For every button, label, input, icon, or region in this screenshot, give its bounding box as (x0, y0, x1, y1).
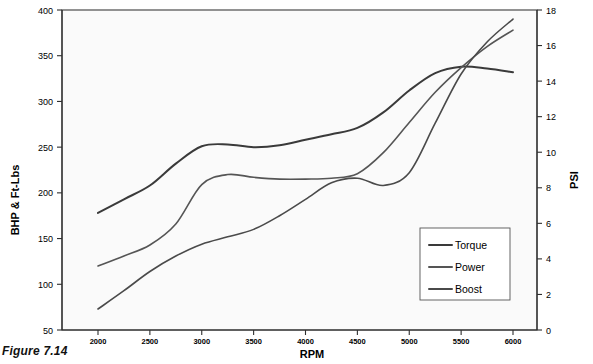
y-axis-title: BHP & Ft-Lbs (9, 165, 21, 236)
y2-tick-label: 6 (546, 219, 551, 229)
legend-label-boost[interactable]: Boost (455, 283, 482, 295)
x-tick-label: 5500 (453, 337, 470, 346)
x-tick-label: 3000 (193, 337, 210, 346)
y-tick-label: 350 (38, 51, 53, 61)
y2-tick-label: 8 (546, 183, 551, 193)
chart-legend[interactable]: TorquePowerBoost (420, 228, 510, 300)
dyno-chart: 5010015020025030035040002468101214161820… (0, 0, 593, 364)
y-tick-label: 50 (43, 326, 53, 336)
x-tick-label: 4500 (349, 337, 366, 346)
y2-tick-label: 18 (546, 6, 556, 16)
figure-caption: Figure 7.14 (2, 344, 68, 358)
y2-tick-label: 16 (546, 41, 556, 51)
y2-tick-label: 0 (546, 326, 551, 336)
y-tick-label: 100 (38, 280, 53, 290)
x-tick-label: 4000 (297, 337, 314, 346)
x-tick-label: 2500 (142, 337, 159, 346)
y2-tick-label: 2 (546, 290, 551, 300)
y-tick-label: 250 (38, 143, 53, 153)
y2-tick-label: 10 (546, 148, 556, 158)
legend-label-power[interactable]: Power (455, 261, 485, 273)
y2-tick-label: 12 (546, 112, 556, 122)
x-axis-title: RPM (300, 348, 324, 360)
y-tick-label: 200 (38, 188, 53, 198)
figure-container: 5010015020025030035040002468101214161820… (0, 0, 593, 364)
y2-tick-label: 14 (546, 77, 556, 87)
y2-axis-title: PSI (568, 171, 580, 189)
x-tick-label: 3500 (245, 337, 262, 346)
y-tick-label: 300 (38, 97, 53, 107)
y-tick-label: 400 (38, 6, 53, 16)
y2-tick-label: 4 (546, 254, 551, 264)
x-tick-label: 6000 (505, 337, 522, 346)
x-tick-label: 5000 (401, 337, 418, 346)
y-tick-label: 150 (38, 234, 53, 244)
legend-label-torque[interactable]: Torque (455, 239, 487, 251)
x-tick-label: 2000 (90, 337, 107, 346)
